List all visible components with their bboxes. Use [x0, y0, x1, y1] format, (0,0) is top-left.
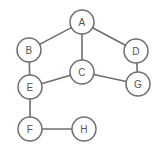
graph-edge-d-g [137, 63, 138, 72]
graph-node-f[interactable]: F [18, 117, 42, 141]
graph-node-label-a: A [79, 17, 86, 28]
graph-node-d[interactable]: D [124, 39, 148, 63]
graph-node-e[interactable]: E [18, 75, 42, 99]
graph-diagram: ABCDEFGH [0, 0, 158, 152]
graph-node-g[interactable]: G [126, 72, 150, 96]
graph-node-h[interactable]: H [72, 117, 96, 141]
graph-node-label-c: C [78, 67, 85, 78]
graph-node-label-d: D [132, 46, 139, 57]
graph-node-label-h: H [80, 124, 87, 135]
graph-edge-c-g [94, 75, 127, 82]
graph-node-b[interactable]: B [17, 38, 41, 62]
graph-edge-a-d [93, 28, 126, 46]
graph-edge-c-e [42, 75, 71, 83]
graph-node-a[interactable]: A [70, 10, 94, 34]
graph-node-label-f: F [27, 124, 33, 135]
graph-node-label-e: E [27, 82, 34, 93]
node-layer: ABCDEFGH [17, 10, 150, 141]
graph-node-label-b: B [26, 45, 33, 56]
graph-edge-a-b [40, 28, 72, 45]
graph-node-label-g: G [134, 79, 142, 90]
graph-node-c[interactable]: C [70, 60, 94, 84]
